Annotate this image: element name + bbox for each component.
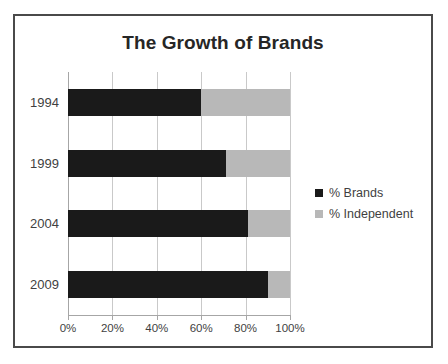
category-label-1994: 1994 — [30, 89, 59, 116]
bar-row: 2004 — [68, 210, 290, 237]
x-axis-line — [68, 315, 291, 316]
x-tick-label-60%: 60% — [190, 322, 213, 334]
plot-area: 1994199920042009 — [68, 72, 290, 315]
bar-segment — [68, 271, 268, 298]
legend-swatch-icon — [315, 210, 323, 218]
gridline-100% — [290, 72, 291, 315]
x-tick-label-40%: 40% — [145, 322, 168, 334]
legend-item[interactable]: % Brands — [315, 186, 413, 200]
chart-legend: % Brands% Independent — [315, 186, 413, 228]
bar-segment — [201, 89, 290, 116]
x-tick-label-80%: 80% — [234, 322, 257, 334]
legend-label: % Brands — [329, 186, 383, 200]
x-tick — [68, 315, 69, 320]
x-tick-label-20%: 20% — [101, 322, 124, 334]
bar-segment — [68, 89, 201, 116]
legend-swatch-icon — [315, 189, 323, 197]
category-label-2004: 2004 — [30, 210, 59, 237]
chart-title: The Growth of Brands — [15, 32, 431, 54]
x-tick-label-100%: 100% — [275, 322, 304, 334]
bar-segment — [68, 210, 248, 237]
category-label-1999: 1999 — [30, 150, 59, 177]
x-tick — [157, 315, 158, 320]
x-tick — [201, 315, 202, 320]
x-tick — [112, 315, 113, 320]
bar-row: 1999 — [68, 150, 290, 177]
x-tick — [246, 315, 247, 320]
legend-label: % Independent — [329, 207, 413, 221]
bar-segment — [248, 210, 290, 237]
chart-frame: The Growth of Brands 1994199920042009 % … — [13, 14, 433, 348]
x-tick — [290, 315, 291, 320]
bar-segment — [268, 271, 290, 298]
legend-item[interactable]: % Independent — [315, 207, 413, 221]
bar-series-group: 1994199920042009 — [68, 72, 290, 315]
bar-row: 2009 — [68, 271, 290, 298]
bar-segment — [68, 150, 226, 177]
bar-row: 1994 — [68, 89, 290, 116]
bar-segment — [226, 150, 290, 177]
x-tick-label-0%: 0% — [60, 322, 77, 334]
category-label-2009: 2009 — [30, 271, 59, 298]
